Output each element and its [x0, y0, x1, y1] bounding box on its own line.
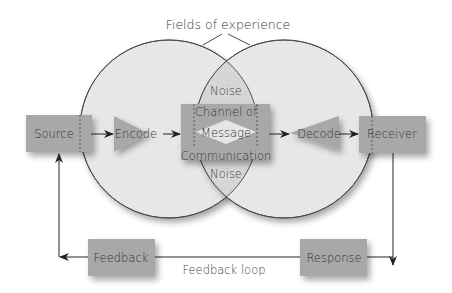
message-label: Message [201, 126, 251, 140]
svg-text:Decode: Decode [297, 127, 341, 141]
channel-bottom-label: Communication [181, 149, 272, 163]
feedback-loop-label: Feedback loop [183, 263, 266, 277]
channel-top-label: Channel of [195, 105, 258, 119]
channel-of-communication-box: Channel of Message Communication [181, 104, 272, 163]
svg-text:Receiver: Receiver [367, 127, 417, 141]
feedback-box: Feedback [88, 239, 155, 276]
noise-top-label: Noise [210, 84, 242, 98]
communication-model-diagram: Fields of experience Noise Noise Source … [0, 0, 452, 293]
svg-text:Response: Response [306, 251, 361, 265]
diagram-title: Fields of experience [166, 17, 291, 32]
source-box: Source [26, 115, 92, 152]
noise-bottom-label: Noise [210, 167, 242, 181]
svg-text:Source: Source [34, 127, 74, 141]
response-box: Response [300, 239, 367, 276]
title-pointer-lines [203, 34, 250, 45]
receiver-box: Receiver [359, 116, 426, 153]
svg-text:Feedback: Feedback [94, 251, 149, 265]
svg-text:Encode: Encode [115, 127, 157, 141]
